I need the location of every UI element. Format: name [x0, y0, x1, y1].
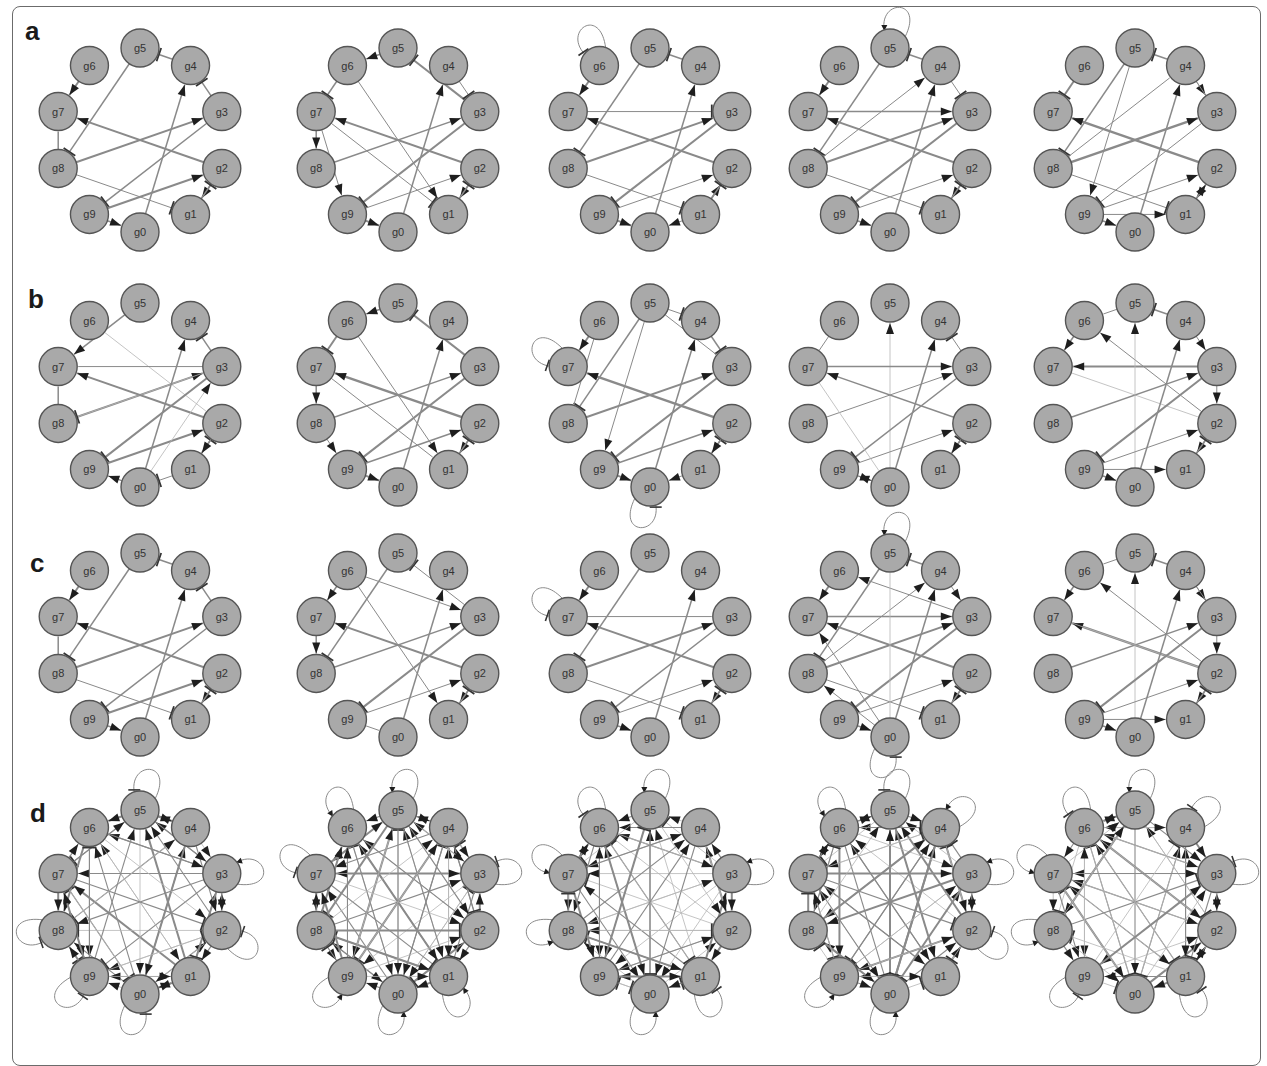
node-g7: g7 — [297, 348, 335, 386]
svg-text:g1: g1 — [1179, 970, 1191, 982]
node-g4: g4 — [1167, 552, 1205, 590]
svg-text:g6: g6 — [1078, 565, 1090, 577]
node-g4: g4 — [172, 302, 210, 340]
node-g4: g4 — [922, 809, 960, 847]
svg-text:g1: g1 — [694, 713, 706, 725]
svg-text:g6: g6 — [83, 565, 95, 577]
node-g1: g1 — [430, 195, 468, 233]
node-g2: g2 — [953, 149, 991, 187]
node-g2: g2 — [1198, 911, 1236, 949]
node-g3: g3 — [203, 598, 241, 636]
node-g5: g5 — [121, 29, 159, 67]
svg-text:g9: g9 — [83, 713, 95, 725]
node-g1: g1 — [682, 700, 720, 738]
node-g4: g4 — [430, 552, 468, 590]
svg-text:g5: g5 — [884, 42, 896, 54]
svg-text:g9: g9 — [341, 970, 353, 982]
node-g3: g3 — [461, 598, 499, 636]
svg-text:g9: g9 — [83, 970, 95, 982]
svg-text:g0: g0 — [644, 731, 656, 743]
node-g8: g8 — [549, 654, 587, 692]
svg-text:g9: g9 — [833, 208, 845, 220]
svg-text:g3: g3 — [726, 611, 738, 623]
svg-text:g9: g9 — [593, 208, 605, 220]
node-g3: g3 — [461, 93, 499, 131]
svg-text:g2: g2 — [1211, 924, 1223, 936]
svg-text:g4: g4 — [184, 60, 196, 72]
svg-text:g9: g9 — [1078, 463, 1090, 475]
node-g5: g5 — [1116, 791, 1154, 829]
svg-text:g0: g0 — [392, 481, 404, 493]
node-g4: g4 — [430, 302, 468, 340]
node-g6: g6 — [328, 809, 366, 847]
node-g0: g0 — [1116, 975, 1154, 1013]
node-g5: g5 — [1116, 29, 1154, 67]
node-g0: g0 — [871, 975, 909, 1013]
node-g4: g4 — [430, 47, 468, 85]
svg-text:g7: g7 — [52, 361, 64, 373]
node-g3: g3 — [953, 93, 991, 131]
svg-text:g8: g8 — [802, 162, 814, 174]
node-g4: g4 — [922, 302, 960, 340]
node-g8: g8 — [789, 149, 827, 187]
svg-text:g3: g3 — [216, 361, 228, 373]
svg-text:g7: g7 — [802, 361, 814, 373]
svg-text:g0: g0 — [134, 988, 146, 1000]
svg-text:g3: g3 — [1211, 361, 1223, 373]
svg-text:g5: g5 — [644, 297, 656, 309]
node-g6: g6 — [820, 552, 858, 590]
node-g9: g9 — [70, 195, 108, 233]
svg-text:g0: g0 — [392, 988, 404, 1000]
svg-text:g6: g6 — [83, 315, 95, 327]
node-g9: g9 — [328, 957, 366, 995]
node-g9: g9 — [70, 957, 108, 995]
svg-text:g2: g2 — [474, 162, 486, 174]
svg-text:g1: g1 — [442, 208, 454, 220]
node-g6: g6 — [820, 302, 858, 340]
node-g9: g9 — [580, 195, 618, 233]
svg-text:g6: g6 — [341, 565, 353, 577]
node-g7: g7 — [1034, 348, 1072, 386]
node-g1: g1 — [1167, 700, 1205, 738]
node-g5: g5 — [379, 534, 417, 572]
node-g1: g1 — [682, 195, 720, 233]
node-g5: g5 — [631, 29, 669, 67]
svg-text:g5: g5 — [392, 804, 404, 816]
node-g9: g9 — [1065, 450, 1103, 488]
svg-text:g4: g4 — [442, 822, 454, 834]
svg-text:g0: g0 — [392, 731, 404, 743]
node-g9: g9 — [580, 450, 618, 488]
node-g8: g8 — [789, 654, 827, 692]
node-g1: g1 — [1167, 957, 1205, 995]
svg-text:g6: g6 — [833, 315, 845, 327]
svg-text:g4: g4 — [1179, 822, 1191, 834]
node-g4: g4 — [1167, 302, 1205, 340]
node-g5: g5 — [871, 284, 909, 322]
svg-text:g7: g7 — [310, 868, 322, 880]
svg-text:g3: g3 — [726, 361, 738, 373]
svg-text:g1: g1 — [442, 713, 454, 725]
node-g3: g3 — [461, 855, 499, 893]
svg-text:g3: g3 — [966, 106, 978, 118]
svg-text:g4: g4 — [184, 822, 196, 834]
node-g2: g2 — [953, 654, 991, 692]
svg-text:g4: g4 — [1179, 315, 1191, 327]
svg-text:g4: g4 — [934, 315, 946, 327]
node-g0: g0 — [1116, 718, 1154, 756]
node-g8: g8 — [39, 404, 77, 442]
node-g2: g2 — [1198, 404, 1236, 442]
svg-text:g2: g2 — [966, 667, 978, 679]
svg-text:g0: g0 — [134, 731, 146, 743]
node-g0: g0 — [379, 468, 417, 506]
edges-layer — [16, 7, 1258, 1034]
svg-text:g3: g3 — [726, 106, 738, 118]
svg-text:g7: g7 — [1047, 106, 1059, 118]
svg-text:g5: g5 — [644, 42, 656, 54]
svg-text:g2: g2 — [216, 667, 228, 679]
svg-text:g1: g1 — [442, 463, 454, 475]
node-g8: g8 — [789, 404, 827, 442]
svg-text:g5: g5 — [644, 547, 656, 559]
svg-text:g6: g6 — [833, 60, 845, 72]
svg-text:g5: g5 — [134, 804, 146, 816]
svg-text:g7: g7 — [562, 868, 574, 880]
